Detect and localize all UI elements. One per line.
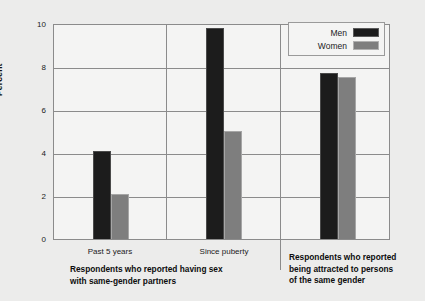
legend-swatch-men xyxy=(353,28,379,37)
ytick-label-4: 4 xyxy=(0,149,46,158)
y-axis-label: Percent xyxy=(0,63,4,96)
bar-chart-figure: 10 8 6 4 2 0 Percent Men Women Past 5 ye… xyxy=(0,0,425,301)
bar-women-since-puberty xyxy=(224,131,242,239)
ytick-label-2: 2 xyxy=(0,192,46,201)
legend-label-men: Men xyxy=(330,28,347,38)
plot-area xyxy=(53,24,390,240)
legend-label-women: Women xyxy=(318,41,347,51)
legend-item-men: Men xyxy=(289,26,379,39)
xtick-label-since-puberty: Since puberty xyxy=(200,247,249,256)
bar-women-past-5-years xyxy=(111,194,129,239)
bar-men-since-puberty xyxy=(206,28,224,239)
legend-swatch-women xyxy=(353,41,379,50)
bar-men-same-gender-attraction xyxy=(320,73,338,239)
ytick-label-10: 10 xyxy=(0,20,46,29)
panel-divider xyxy=(280,24,281,270)
caption-left-panel: Respondents who reported having sex with… xyxy=(70,264,223,287)
caption-right-panel: Respondents who reported being attracted… xyxy=(289,252,396,287)
xtick-label-past-5-years: Past 5 years xyxy=(88,247,132,256)
group-divider-1 xyxy=(166,25,167,240)
ytick-label-8: 8 xyxy=(0,63,46,72)
bar-women-same-gender-attraction xyxy=(338,77,356,239)
legend-item-women: Women xyxy=(289,39,379,52)
bar-men-past-5-years xyxy=(93,151,111,239)
ytick-label-6: 6 xyxy=(0,106,46,115)
legend: Men Women xyxy=(288,22,385,56)
ytick-label-0: 0 xyxy=(0,235,46,244)
